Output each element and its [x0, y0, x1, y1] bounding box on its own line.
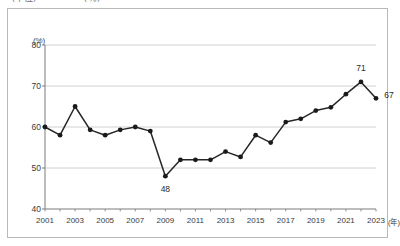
y-tick-70: 70 — [19, 81, 41, 91]
data-label-2023: 67 — [384, 90, 393, 100]
x-tick-2007: 2007 — [126, 216, 144, 225]
y-tick-50: 50 — [19, 163, 41, 173]
series-markers — [43, 80, 379, 179]
x-tick-2021: 2021 — [337, 216, 355, 225]
axis-lines — [42, 45, 376, 212]
x-tick-2003: 2003 — [66, 216, 84, 225]
x-tick-2015: 2015 — [247, 216, 265, 225]
cropped-title-fragment: （単位） （％） — [6, 0, 176, 2]
x-tick-2009: 2009 — [156, 216, 174, 225]
x-tick-2019: 2019 — [307, 216, 325, 225]
x-tick-2011: 2011 — [187, 216, 204, 225]
line-chart-svg — [45, 45, 376, 209]
x-axis-unit-label: (年) — [388, 216, 400, 227]
x-tick-2001: 2001 — [36, 216, 54, 225]
y-tick-40: 40 — [19, 204, 41, 214]
gridlines — [45, 45, 376, 168]
x-tick-2013: 2013 — [217, 216, 235, 225]
x-tick-2017: 2017 — [277, 216, 295, 225]
y-tick-80: 80 — [19, 40, 41, 50]
x-tick-2005: 2005 — [96, 216, 114, 225]
y-tick-60: 60 — [19, 122, 41, 132]
x-tick-2023: 2023 — [367, 216, 385, 225]
plot-area — [45, 45, 376, 209]
